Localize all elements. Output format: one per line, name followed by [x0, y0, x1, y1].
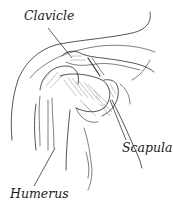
humerus-label: Humerus [10, 188, 69, 201]
scapula-label: Scapula [122, 142, 173, 155]
clavicle-label: Clavicle [24, 10, 74, 23]
shoulder-illustration [0, 0, 173, 204]
